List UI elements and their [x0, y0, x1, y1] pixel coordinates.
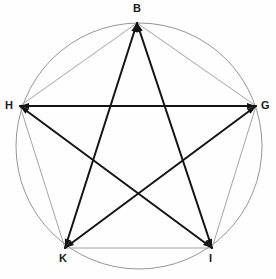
chord-K-B — [65, 23, 137, 248]
vertex-label-g: G — [261, 100, 270, 111]
chord-B-I — [137, 23, 212, 248]
vertex-label-i: I — [209, 253, 212, 264]
figure-canvas — [0, 0, 276, 279]
chord-G-K — [65, 106, 256, 248]
geometry-figure: BGIKH — [0, 0, 276, 279]
circle-layer — [16, 23, 262, 269]
star-chords-layer — [20, 23, 256, 248]
pentagon-edges-layer — [20, 23, 256, 248]
chord-I-H — [20, 106, 212, 248]
vertex-label-k: K — [59, 253, 67, 264]
edge-K-H — [20, 106, 65, 248]
arrowhead-BI-at-B — [137, 23, 143, 32]
edge-B-G — [137, 23, 256, 106]
edge-H-B — [20, 23, 137, 106]
circumscribed-circle — [16, 23, 262, 269]
edge-G-I — [212, 106, 256, 248]
vertex-label-h: H — [5, 100, 13, 111]
vertex-label-b: B — [133, 3, 141, 14]
arrowheads-layer — [20, 23, 256, 248]
